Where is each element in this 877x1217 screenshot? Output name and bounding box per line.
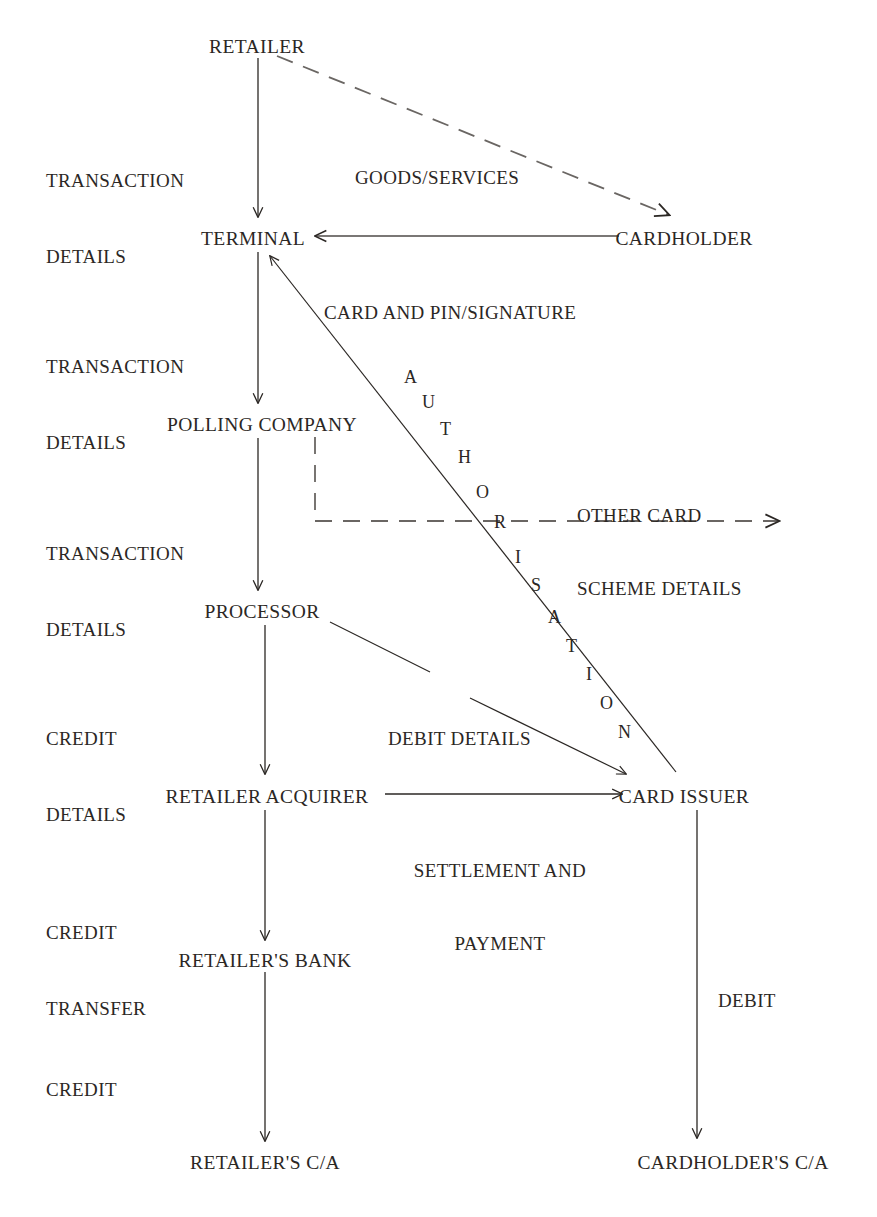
authorisation-letter: N: [618, 723, 631, 741]
side-label-line: DETAILS: [46, 802, 126, 827]
side-label-line: TRANSFER: [46, 996, 146, 1021]
edge-label-line: PAYMENT: [414, 932, 586, 956]
edge-label-settlement-and-payment: SETTLEMENT AND PAYMENT: [414, 810, 586, 1005]
edge-label-debit-details: DEBIT DETAILS: [388, 678, 531, 800]
edge-label-line: DEBIT: [718, 989, 776, 1013]
side-label-line: DETAILS: [46, 430, 184, 455]
edge-label-line: CARD AND PIN/SIGNATURE: [324, 301, 576, 325]
side-label-credit-details: CREDIT DETAILS: [46, 675, 126, 879]
node-retailers-ca[interactable]: RETAILER'S C/A: [190, 1152, 340, 1174]
authorisation-letter: H: [458, 448, 471, 466]
side-label-line: DETAILS: [46, 617, 184, 642]
edge-label-line: SCHEME DETAILS: [577, 577, 742, 601]
authorisation-letter: U: [422, 393, 435, 411]
edge-label-debit: DEBIT: [718, 940, 776, 1062]
side-label-line: TRANSACTION: [46, 354, 184, 379]
node-processor[interactable]: PROCESSOR: [204, 601, 319, 623]
authorisation-letter: T: [566, 637, 577, 655]
side-label-transaction-details-1: TRANSACTION DETAILS: [46, 117, 184, 321]
authorisation-letter: O: [600, 694, 613, 712]
side-label-transaction-details-2: TRANSACTION DETAILS: [46, 303, 184, 507]
node-retailer[interactable]: RETAILER: [209, 36, 305, 58]
authorisation-letter: S: [531, 576, 541, 594]
side-label-line: CREDIT: [46, 1077, 117, 1102]
node-card-issuer[interactable]: CARD ISSUER: [619, 786, 750, 808]
edge-label-line: SETTLEMENT AND: [414, 859, 586, 883]
authorisation-letter: A: [548, 608, 561, 626]
node-cardholder[interactable]: CARDHOLDER: [615, 228, 752, 250]
edge-processor-to-debit-label: [330, 622, 430, 672]
side-label-line: TRANSACTION: [46, 541, 184, 566]
side-label-transaction-details-3: TRANSACTION DETAILS: [46, 490, 184, 694]
node-polling-company[interactable]: POLLING COMPANY: [167, 414, 357, 436]
node-retailers-bank[interactable]: RETAILER'S BANK: [178, 950, 351, 972]
side-label-line: CREDIT: [46, 726, 126, 751]
side-label-line: CREDIT: [46, 920, 146, 945]
edge-label-line: DEBIT DETAILS: [388, 727, 531, 751]
authorisation-letter: R: [494, 513, 506, 531]
authorisation-letter: I: [515, 548, 521, 566]
side-label-line: TRANSACTION: [46, 168, 184, 193]
edge-label-line: GOODS/SERVICES: [355, 166, 519, 190]
authorisation-letter: I: [586, 665, 592, 683]
authorisation-letter: T: [440, 420, 451, 438]
node-terminal[interactable]: TERMINAL: [201, 228, 305, 250]
authorisation-letter: A: [404, 368, 417, 386]
authorisation-letter: O: [476, 483, 489, 501]
edge-label-goods-services: GOODS/SERVICES: [355, 117, 519, 239]
edge-label-other-card-scheme-details: OTHER CARD SCHEME DETAILS: [577, 455, 742, 650]
side-label-credit: CREDIT: [46, 1026, 117, 1153]
node-cardholders-ca[interactable]: CARDHOLDER'S C/A: [637, 1152, 828, 1174]
side-label-line: DETAILS: [46, 244, 184, 269]
flowchart-canvas: RETAILER TERMINAL CARDHOLDER POLLING COM…: [0, 0, 877, 1217]
edge-label-card-and-pin-signature: CARD AND PIN/SIGNATURE: [324, 252, 576, 374]
node-retailer-acquirer[interactable]: RETAILER ACQUIRER: [166, 786, 369, 808]
edge-label-line: OTHER CARD: [577, 504, 742, 528]
